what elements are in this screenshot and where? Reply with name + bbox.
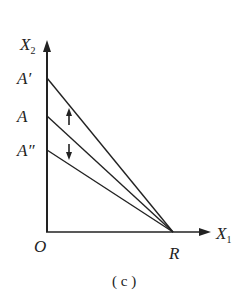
label-a-double-prime: A″ bbox=[16, 141, 35, 160]
line-a-prime-r bbox=[47, 78, 173, 232]
label-origin: O bbox=[34, 237, 46, 256]
down-arrow-icon bbox=[66, 152, 72, 160]
line-a-r bbox=[47, 116, 173, 232]
line-a-double-prime-r bbox=[47, 150, 173, 232]
x-axis-label: X1 bbox=[215, 224, 231, 245]
up-arrow-icon bbox=[66, 108, 72, 116]
label-a: A bbox=[16, 107, 28, 126]
label-r: R bbox=[168, 244, 180, 263]
y-axis-arrow-icon bbox=[43, 40, 51, 52]
label-a-prime: A′ bbox=[16, 69, 31, 88]
y-axis-label: X2 bbox=[19, 35, 35, 56]
caption: ( c ) bbox=[112, 273, 136, 290]
x-axis-arrow-icon bbox=[199, 228, 211, 236]
diagram-canvas: X2 A′ A A″ O R X1 ( c ) bbox=[0, 0, 250, 306]
